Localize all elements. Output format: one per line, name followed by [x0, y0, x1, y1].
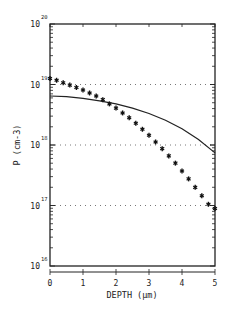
y-tick-base: 10 — [30, 262, 40, 271]
y-tick-exponent: 17 — [41, 196, 48, 202]
star-marker — [187, 176, 191, 181]
star-marker — [180, 169, 184, 174]
star-marker — [55, 78, 59, 83]
star-marker — [94, 93, 98, 98]
x-tick-labels: 012345 — [48, 279, 218, 288]
y-tick-exponent: 19 — [41, 75, 48, 81]
plot-frame — [50, 24, 215, 272]
star-marker — [140, 127, 144, 132]
y-tick-base: 10 — [30, 202, 40, 211]
star-marker — [173, 161, 177, 166]
y-axis-title: P (cm-3) — [12, 125, 22, 166]
y-tick-base: 10 — [30, 20, 40, 29]
star-marker — [121, 110, 125, 115]
star-marker — [200, 193, 204, 198]
y-tick-exponent: 16 — [41, 256, 48, 262]
star-marker — [134, 121, 138, 126]
x-tick-label: 3 — [147, 279, 152, 288]
y-tick-exponent: 20 — [41, 14, 48, 20]
measured-markers — [48, 76, 217, 211]
y-tick-exponent: 18 — [41, 135, 48, 141]
gridlines — [50, 85, 215, 206]
star-marker — [48, 76, 52, 81]
star-marker — [193, 185, 197, 190]
y-tick-base: 10 — [30, 141, 40, 150]
star-marker — [206, 202, 210, 207]
star-marker — [81, 87, 85, 92]
chart: 10201019101810171016 012345 DEPTH (µm) P… — [0, 0, 228, 312]
x-axis-title: DEPTH (µm) — [106, 290, 157, 300]
x-tick-label: 2 — [114, 279, 119, 288]
x-tick-label: 1 — [81, 279, 86, 288]
star-marker — [88, 90, 92, 95]
x-tick-label: 5 — [213, 279, 218, 288]
star-marker — [114, 106, 118, 111]
y-tick-base: 10 — [30, 81, 40, 90]
star-marker — [167, 153, 171, 158]
x-tick-label: 0 — [48, 279, 53, 288]
star-marker — [160, 146, 164, 151]
y-tick-labels: 10201019101810171016 — [30, 14, 47, 271]
x-tick-label: 4 — [180, 279, 185, 288]
x-axis-ticks — [50, 24, 215, 275]
star-marker — [74, 85, 78, 90]
simulated-curve — [50, 96, 215, 153]
star-marker — [147, 133, 151, 138]
star-marker — [68, 83, 72, 88]
star-marker — [127, 115, 131, 120]
star-marker — [154, 139, 158, 144]
star-marker — [61, 80, 65, 85]
